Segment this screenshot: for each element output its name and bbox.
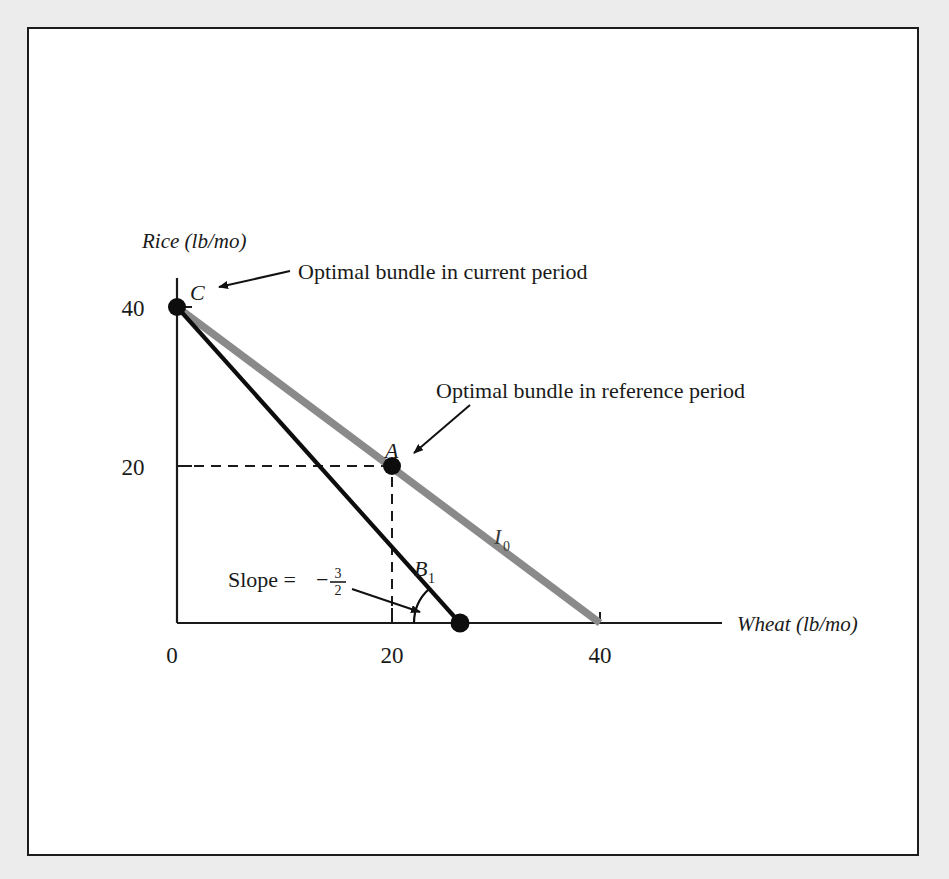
annotation-reference-period: Optimal bundle in reference period (414, 378, 745, 453)
annotation-current-period: Optimal bundle in current period (219, 259, 588, 287)
figure-page: C A I 0 B 1 Rice (lb/mo) Wheat (lb/mo) 4… (0, 0, 949, 879)
y-axis-title: Rice (lb/mo) (141, 229, 246, 253)
point-label-C: C (190, 280, 205, 305)
ytick-label-40: 40 (122, 296, 145, 321)
slope-label-prefix: Slope = (228, 567, 296, 592)
annotation-current-period-text: Optimal bundle in current period (298, 259, 588, 284)
curve-label-B1-subscript: 1 (428, 571, 435, 586)
slope-fraction-denominator: 2 (335, 583, 342, 598)
annotation-reference-period-leader (414, 405, 470, 453)
annotation-slope-leader (352, 589, 420, 612)
economics-budget-line-chart: C A I 0 B 1 Rice (lb/mo) Wheat (lb/mo) 4… (0, 0, 949, 879)
ytick-label-20: 20 (122, 455, 145, 480)
slope-label-sign: − (316, 567, 328, 592)
xtick-label-0: 0 (166, 643, 178, 668)
point-B1-intercept-marker (451, 614, 470, 633)
guide-lines-group (177, 466, 392, 623)
annotation-reference-period-text: Optimal bundle in reference period (436, 378, 745, 403)
point-label-A: A (383, 438, 399, 463)
xtick-label-20: 20 (381, 643, 404, 668)
xtick-label-40: 40 (589, 643, 612, 668)
annotation-current-period-leader (219, 271, 290, 287)
point-C-marker (168, 298, 186, 316)
curve-label-I0-subscript: 0 (503, 539, 510, 554)
slope-angle-arc (414, 589, 429, 623)
x-axis-title: Wheat (lb/mo) (737, 612, 858, 636)
slope-fraction-numerator: 3 (335, 566, 342, 581)
curve-label-B1-letter: B (414, 556, 427, 581)
